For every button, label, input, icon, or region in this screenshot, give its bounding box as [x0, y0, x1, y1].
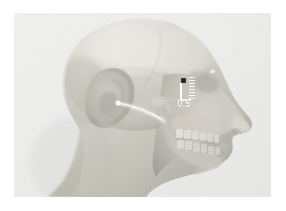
ear-group	[82, 65, 138, 129]
screenshot-viewport: 0.5	[0, 0, 286, 211]
head-profile-render	[14, 13, 271, 197]
anatomical-render-canvas[interactable]: 0.5	[14, 13, 271, 197]
